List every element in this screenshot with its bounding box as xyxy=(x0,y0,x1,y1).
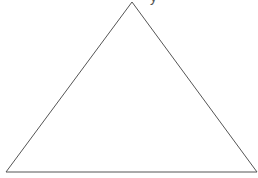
triangle-shape xyxy=(6,2,257,172)
triangle-diagram xyxy=(0,0,258,178)
